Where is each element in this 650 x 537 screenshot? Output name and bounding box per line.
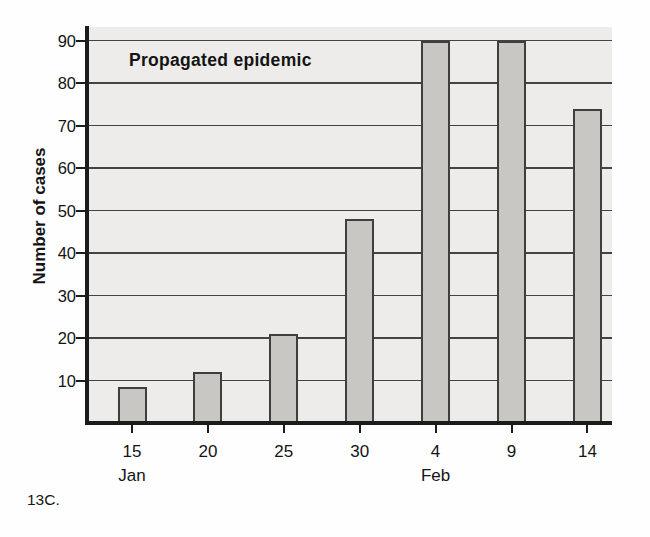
y-tick-label-40: 40 xyxy=(38,245,76,261)
y-tick-label-30: 30 xyxy=(38,288,76,304)
x-axis-line xyxy=(85,421,612,425)
gridline-50 xyxy=(88,210,612,212)
y-tick-label-80: 80 xyxy=(38,75,76,91)
y-axis-tick-40 xyxy=(76,252,85,254)
bar-15 xyxy=(118,387,147,424)
figure: Propagated epidemic Number of cases 13C.… xyxy=(0,0,650,537)
month-label-feb: Feb xyxy=(406,466,466,486)
x-tick-label-30: 30 xyxy=(336,442,384,462)
chart-title: Propagated epidemic xyxy=(129,50,312,71)
y-axis-tick-60 xyxy=(76,167,85,169)
y-tick-label-90: 90 xyxy=(38,33,76,49)
y-axis-tick-30 xyxy=(76,295,85,297)
x-tick-label-9: 9 xyxy=(488,442,536,462)
bar-30 xyxy=(345,219,374,424)
x-tick-label-25: 25 xyxy=(260,442,308,462)
x-axis-tick-30 xyxy=(359,425,361,433)
bar-4 xyxy=(421,41,450,425)
y-axis-tick-50 xyxy=(76,210,85,212)
bar-9 xyxy=(497,41,526,425)
gridline-80 xyxy=(88,82,612,84)
y-axis-tick-80 xyxy=(76,82,85,84)
bar-14 xyxy=(573,109,602,425)
y-tick-label-60: 60 xyxy=(38,160,76,176)
x-axis-tick-4 xyxy=(435,425,437,433)
x-tick-label-20: 20 xyxy=(184,442,232,462)
y-axis-tick-10 xyxy=(76,380,85,382)
y-tick-label-50: 50 xyxy=(38,203,76,219)
y-axis-tick-20 xyxy=(76,337,85,339)
y-axis-line xyxy=(85,26,89,425)
month-label-jan: Jan xyxy=(102,466,162,486)
y-tick-label-20: 20 xyxy=(38,330,76,346)
x-tick-label-4: 4 xyxy=(412,442,460,462)
x-axis-tick-25 xyxy=(283,425,285,433)
bar-20 xyxy=(193,372,222,424)
y-tick-label-70: 70 xyxy=(38,118,76,134)
x-tick-label-14: 14 xyxy=(563,442,611,462)
figure-label: 13C. xyxy=(27,491,60,509)
gridline-70 xyxy=(88,125,612,127)
x-axis-tick-14 xyxy=(586,425,588,433)
gridline-90 xyxy=(88,40,612,42)
x-axis-tick-9 xyxy=(511,425,513,433)
bar-25 xyxy=(269,334,298,424)
x-tick-label-15: 15 xyxy=(108,442,156,462)
x-axis-tick-15 xyxy=(131,425,133,433)
y-tick-label-10: 10 xyxy=(38,373,76,389)
gridline-60 xyxy=(88,167,612,169)
x-axis-tick-20 xyxy=(207,425,209,433)
y-axis-tick-90 xyxy=(76,40,85,42)
y-axis-tick-70 xyxy=(76,125,85,127)
